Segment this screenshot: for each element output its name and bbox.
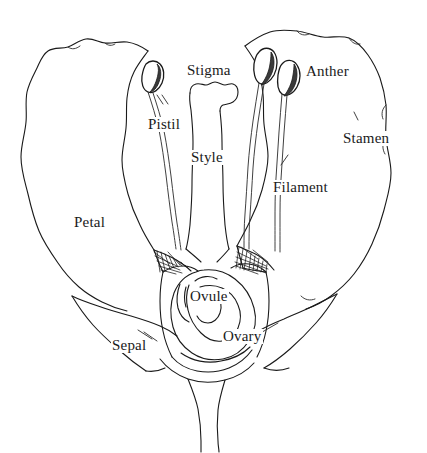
label-anther: Anther (305, 64, 350, 79)
ovary-chamber (171, 270, 256, 362)
label-sepal: Sepal (111, 338, 147, 353)
label-ovary: Ovary (222, 329, 263, 344)
label-petal: Petal (73, 215, 106, 230)
style-and-stigma (186, 82, 238, 249)
flower-stem (188, 379, 225, 452)
flower-anatomy-diagram: Stigma Anther Pistil Stamen Style Filame… (0, 0, 427, 453)
label-stigma: Stigma (186, 63, 232, 78)
label-pistil: Pistil (147, 117, 181, 132)
left-petal-shape (21, 39, 148, 311)
label-filament: Filament (272, 180, 329, 195)
right-stamen-inner (244, 48, 277, 249)
label-stamen: Stamen (342, 131, 390, 146)
label-ovule: Ovule (189, 289, 229, 304)
label-style: Style (190, 150, 224, 165)
left-stamen (142, 61, 181, 250)
